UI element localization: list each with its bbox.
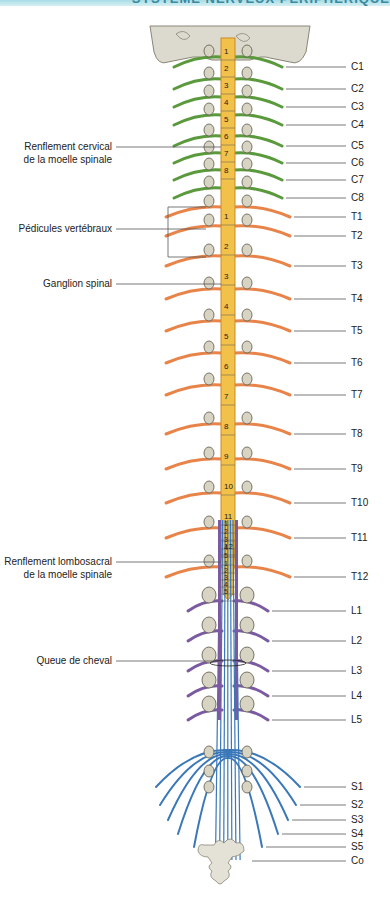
vertebral-pedicle-left [204,45,214,57]
cord-segment-sacral-1: 1 [224,560,228,567]
spinal-nerve-right-c3 [234,97,282,107]
vertebral-pedicle-right [242,746,252,758]
vertebral-pedicle-left [204,195,214,207]
spinal-nerve-right-c6 [234,153,282,163]
cord-segment-thoracic-2: 2 [224,242,228,251]
nerve-label-t2: T2 [351,229,363,242]
vertebral-pedicle-right [242,373,252,385]
vertebral-pedicle-left [204,309,214,321]
spinal-nerve-right-t2 [234,226,290,236]
cord-segment-cervical-5: 5 [224,115,228,124]
spinal-nerve-right-t5 [234,321,290,331]
spinal-nerve-right-l2 [234,631,268,641]
vertebral-pedicle-right [242,277,252,289]
spinal-nerve-right-t1 [234,207,290,217]
vertebral-pedicle-left [204,746,214,758]
spinal-nerve-left-t5 [166,321,222,331]
cord-segment-cervical-8: 8 [224,166,228,175]
nerve-label-t4: T4 [351,292,363,305]
spinal-nerve-right-t11 [234,528,290,538]
vertebral-pedicle-right [242,67,252,79]
vertebral-pedicle-right [242,412,252,424]
nerve-label-t10: T10 [351,496,368,509]
spinal-nerve-left-t7 [166,385,222,395]
vertebral-pedicle-right [242,85,252,97]
spinal-nerve-right-c2 [234,79,282,89]
cord-segment-lumbar-3: 3 [224,536,228,543]
nerve-label-l3: L3 [351,664,362,677]
spinal-nerve-left-t4 [166,289,222,299]
spinal-nerve-left-l1 [188,601,222,611]
vertebral-pedicle-left [204,555,214,567]
nerve-label-c7: C7 [351,173,364,186]
spinal-nerve-right-c8 [234,188,282,198]
left-label-line2: de la moelle spinale [24,153,112,166]
cord-segment-lumbar-5: 5 [224,552,228,559]
nerve-label-s1: S1 [351,780,363,793]
spinal-nerve-right-l1 [234,601,268,611]
spinal-nerve-left-s2 [160,752,228,805]
left-label-line1: Queue de cheval [36,654,112,667]
vertebral-pedicle-left [202,587,216,603]
cord-segment-thoracic-7: 7 [224,392,228,401]
left-label-cervical-enlargement: Renflement cervicalde la moelle spinale [24,140,112,166]
left-label-line1: Renflement cervical [24,140,112,153]
nerve-label-c1: C1 [351,60,364,73]
cord-segment-thoracic-1: 1 [224,212,228,221]
vertebral-pedicle-left [204,103,214,115]
nerve-label-s4: S4 [351,827,363,840]
vertebral-pedicle-right [242,516,252,528]
vertebral-pedicle-right [242,195,252,207]
nerve-label-t8: T8 [351,427,363,440]
cord-segment-cervical-4: 4 [224,98,228,107]
nerve-label-c3: C3 [351,100,364,113]
nerve-label-c5: C5 [351,139,364,152]
cord-segment-cervical-3: 3 [224,81,228,90]
vertebral-pedicle-left [204,781,214,793]
vertebral-pedicle-left [204,67,214,79]
vertebral-pedicle-right [240,672,254,688]
spinal-nerve-right-l5 [234,710,268,720]
vertebral-pedicle-right [240,617,254,633]
cord-segment-sacral-3: 3 [224,574,228,581]
vertebral-pedicle-right [242,555,252,567]
spinal-nerve-left-c5 [174,136,222,146]
spinal-nerve-left-c2 [174,79,222,89]
lumbar-root-right [235,520,238,720]
vertebral-pedicle-left [204,277,214,289]
left-label-lumbosacral-enlargement: Renflement lombosacralde la moelle spina… [4,555,112,581]
vertebral-pedicle-left [204,85,214,97]
vertebral-pedicle-right [242,214,252,226]
nerve-label-l5: L5 [351,713,362,726]
vertebral-pedicle-right [242,765,252,777]
spinal-nerve-left-t11 [166,528,222,538]
vertebral-pedicle-right [240,587,254,603]
cord-segment-sacral-2: 2 [224,567,228,574]
spinal-cord-diagram [0,0,390,897]
cord-segment-lumbar-2: 2 [224,528,228,535]
vertebral-pedicle-left [204,214,214,226]
vertebral-pedicle-left [204,481,214,493]
vertebral-pedicle-left [204,447,214,459]
nerve-label-t11: T11 [351,531,368,544]
left-label-line2: de la moelle spinale [4,568,112,581]
spinal-nerve-left-c8 [174,188,222,198]
cord-segment-thoracic-8: 8 [224,422,228,431]
cord-segment-cervical-7: 7 [224,149,228,158]
spinal-nerve-left-t10 [166,493,222,503]
spinal-nerve-left-t2 [166,226,222,236]
spinal-nerve-right-t8 [234,424,290,434]
spinal-nerve-left-c6 [174,153,222,163]
vertebral-pedicle-right [242,244,252,256]
vertebral-pedicle-right [242,447,252,459]
vertebral-pedicle-left [202,672,216,688]
spinal-nerve-left-l4 [188,686,222,696]
vertebral-pedicle-left [204,341,214,353]
nerve-label-s5: S5 [351,840,363,853]
cord-segment-thoracic-3: 3 [224,272,228,281]
spinal-nerve-right-t12 [234,567,290,577]
spinal-nerve-right-t9 [234,459,290,469]
vertebral-pedicle-right [242,158,252,170]
spinal-nerve-left-c3 [174,97,222,107]
cord-segment-cervical-2: 2 [224,64,228,73]
